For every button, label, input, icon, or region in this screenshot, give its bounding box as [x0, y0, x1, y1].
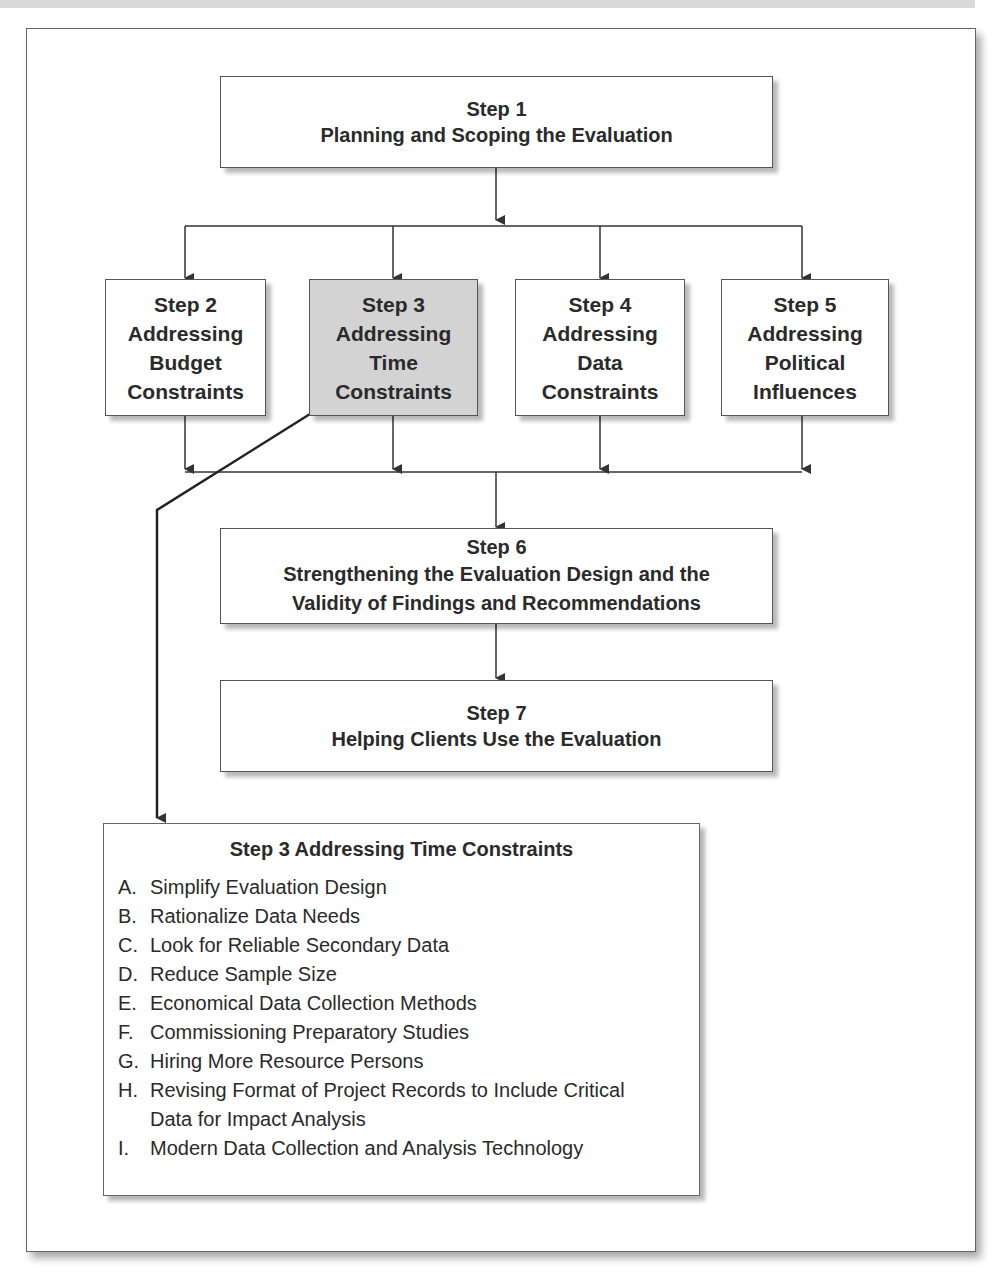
step4-subtitle: Addressing Data Constraints: [542, 319, 659, 406]
step1-title: Step 1: [466, 96, 526, 122]
step2-subtitle: Addressing Budget Constraints: [127, 319, 244, 406]
step2-title: Step 2: [154, 290, 217, 319]
list-item: I.Modern Data Collection and Analysis Te…: [118, 1134, 699, 1163]
step2-box: Step 2 Addressing Budget Constraints: [105, 279, 266, 416]
detail-list: A.Simplify Evaluation Design B.Rationali…: [118, 873, 699, 1163]
list-item: C.Look for Reliable Secondary Data: [118, 931, 699, 960]
step5-subtitle: Addressing Political Influences: [747, 319, 863, 406]
step7-box: Step 7 Helping Clients Use the Evaluatio…: [220, 680, 773, 772]
step6-subtitle: Strengthening the Evaluation Design and …: [283, 560, 710, 618]
list-item: D.Reduce Sample Size: [118, 960, 699, 989]
step7-title: Step 7: [466, 700, 526, 726]
step6-title: Step 6: [466, 534, 526, 560]
list-item: B.Rationalize Data Needs: [118, 902, 699, 931]
step3-title: Step 3: [362, 290, 425, 319]
list-item: H.Revising Format of Project Records to …: [118, 1076, 699, 1134]
step4-title: Step 4: [568, 290, 631, 319]
list-item: F.Commissioning Preparatory Studies: [118, 1018, 699, 1047]
step4-box: Step 4 Addressing Data Constraints: [515, 279, 685, 416]
list-item: E.Economical Data Collection Methods: [118, 989, 699, 1018]
step3-box: Step 3 Addressing Time Constraints: [309, 279, 478, 416]
detail-heading: Step 3 Addressing Time Constraints: [118, 838, 699, 861]
step1-subtitle: Planning and Scoping the Evaluation: [320, 122, 672, 148]
step1-box: Step 1 Planning and Scoping the Evaluati…: [220, 76, 773, 168]
step5-title: Step 5: [773, 290, 836, 319]
list-item: A.Simplify Evaluation Design: [118, 873, 699, 902]
step5-box: Step 5 Addressing Political Influences: [721, 279, 889, 416]
list-item: G.Hiring More Resource Persons: [118, 1047, 699, 1076]
step3-detail-box: Step 3 Addressing Time Constraints A.Sim…: [103, 823, 700, 1196]
step6-box: Step 6 Strengthening the Evaluation Desi…: [220, 528, 773, 624]
step3-subtitle: Addressing Time Constraints: [335, 319, 452, 406]
step7-subtitle: Helping Clients Use the Evaluation: [331, 726, 661, 752]
